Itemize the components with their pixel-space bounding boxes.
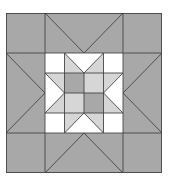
quilt-block (6, 13, 162, 173)
center-patch-bottom-right (84, 93, 104, 113)
center-patch-top-right (84, 73, 104, 93)
center-patch-top-left (65, 73, 85, 93)
center-patch-bottom-left (65, 93, 85, 113)
